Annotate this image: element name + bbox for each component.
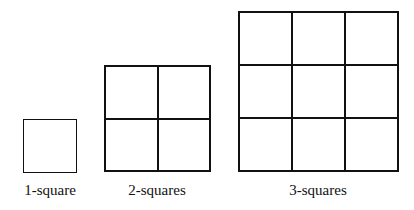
unit-square <box>105 66 158 119</box>
label-2-squares: 2-squares <box>112 182 202 199</box>
label-1-square: 1-square <box>12 182 88 199</box>
unit-square <box>345 65 398 118</box>
grid-1x1 <box>23 119 77 173</box>
unit-square <box>292 12 345 65</box>
grid-2x2 <box>104 65 211 172</box>
unit-square <box>158 66 211 119</box>
unit-square <box>292 118 345 171</box>
unit-square <box>239 118 292 171</box>
unit-square <box>292 65 345 118</box>
unit-square <box>24 120 76 172</box>
unit-square <box>345 12 398 65</box>
unit-square <box>239 65 292 118</box>
label-3-squares: 3-squares <box>272 182 364 199</box>
unit-square <box>345 118 398 171</box>
unit-square <box>158 119 211 172</box>
unit-square <box>105 119 158 172</box>
grid-3x3 <box>238 11 399 172</box>
unit-square <box>239 12 292 65</box>
